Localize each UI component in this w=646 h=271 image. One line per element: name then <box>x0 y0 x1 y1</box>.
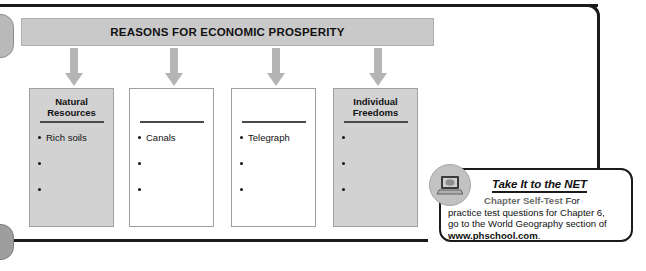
chart-title-banner: REASONS FOR ECONOMIC PROSPERITY <box>21 18 434 46</box>
column-2: Canals <box>129 88 214 227</box>
chart-title: REASONS FOR ECONOMIC PROSPERITY <box>110 26 344 38</box>
column-title-line-2: Resources <box>37 107 106 118</box>
column-title <box>137 96 206 118</box>
column-item-list: Canals <box>137 132 206 210</box>
bottom-horizontal-rule <box>8 239 428 242</box>
arrow-shaft <box>170 48 178 74</box>
top-horizontal-rule <box>0 4 598 7</box>
column-item-list <box>341 132 410 210</box>
arrow-to-column-1 <box>65 48 83 86</box>
net-callout-period: . <box>538 230 541 241</box>
column-title-rule <box>344 121 408 123</box>
net-callout-body-line-1: For <box>565 195 579 206</box>
computer-icon-badge <box>429 164 471 206</box>
net-callout-body: Chapter Self-Test For practice test ques… <box>448 195 624 241</box>
list-item[interactable] <box>341 158 410 184</box>
list-item[interactable] <box>341 184 410 210</box>
net-callout-body-line-3: go to the World Geography section of <box>448 218 607 229</box>
arrow-head-down-icon <box>267 73 285 86</box>
list-item[interactable] <box>137 184 206 210</box>
column-item-list: Rich soils <box>37 132 106 210</box>
column-title-rule <box>242 121 306 123</box>
column-item-list: Telegraph <box>239 132 308 210</box>
column-title-line-1: Natural <box>37 96 106 107</box>
column-title: Natural Resources <box>37 96 106 118</box>
arrow-head-down-icon <box>369 73 387 86</box>
computer-icon <box>437 174 463 196</box>
column-title-rule <box>40 121 104 123</box>
net-callout-body-line-2: practice test questions for Chapter 6, <box>448 207 605 218</box>
column-title-line-1: Individual <box>341 96 410 107</box>
list-item[interactable] <box>239 158 308 184</box>
net-callout-url[interactable]: www.phschool.com <box>448 230 538 241</box>
arrow-to-column-2 <box>165 48 183 86</box>
left-edge-tab-bottom <box>0 224 14 260</box>
list-item[interactable] <box>341 132 410 158</box>
arrow-shaft <box>374 48 382 74</box>
column-individual-freedoms: Individual Freedoms <box>333 88 418 227</box>
list-item[interactable] <box>137 158 206 184</box>
arrow-shaft <box>272 48 280 74</box>
list-item[interactable]: Telegraph <box>239 132 308 158</box>
arrow-head-down-icon <box>165 73 183 86</box>
right-vertical-rule <box>597 22 600 172</box>
column-title <box>239 96 308 118</box>
arrow-shaft <box>70 48 78 74</box>
arrow-to-column-3 <box>267 48 285 86</box>
column-natural-resources: Natural Resources Rich soils <box>29 88 114 227</box>
column-title-rule <box>140 121 204 123</box>
column-title: Individual Freedoms <box>341 96 410 118</box>
net-callout-subhead: Chapter Self-Test <box>484 195 563 206</box>
column-title-line-2: Freedoms <box>341 107 410 118</box>
left-edge-tab-top <box>0 14 14 58</box>
net-callout-heading: Take It to the NET <box>492 178 587 193</box>
column-3: Telegraph <box>231 88 316 227</box>
list-item[interactable] <box>37 184 106 210</box>
arrow-head-down-icon <box>65 73 83 86</box>
list-item[interactable]: Rich soils <box>37 132 106 158</box>
arrow-to-column-4 <box>369 48 387 86</box>
list-item[interactable] <box>239 184 308 210</box>
list-item[interactable] <box>37 158 106 184</box>
list-item[interactable]: Canals <box>137 132 206 158</box>
